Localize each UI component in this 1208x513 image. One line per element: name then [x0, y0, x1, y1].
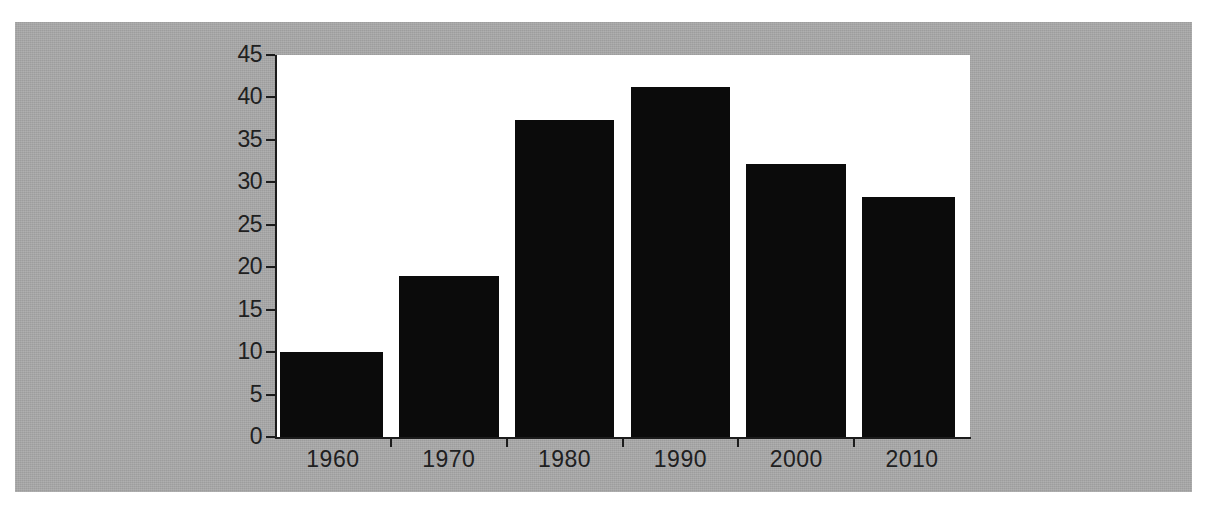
x-axis-label-2000: 2000: [736, 448, 856, 471]
bar-1980: [515, 120, 615, 437]
y-axis-label-text: 0: [226, 425, 262, 448]
y-axis-label-text: 20: [226, 255, 262, 278]
y-axis-label: 15: [224, 298, 262, 322]
y-axis-tick: [266, 309, 275, 311]
x-axis-label-1970: 1970: [389, 448, 509, 471]
y-axis-label: 10: [224, 340, 262, 364]
y-axis-tick: [266, 181, 275, 183]
bar-1970: [399, 276, 499, 437]
y-axis-label: 45: [224, 43, 262, 67]
y-axis-label-text: 45: [226, 43, 262, 66]
y-axis-tick: [266, 394, 275, 396]
y-axis-tick: [266, 436, 275, 438]
x-axis-label-1990: 1990: [620, 448, 740, 471]
y-axis-label-text: 10: [226, 340, 262, 363]
x-axis-label-2010: 2010: [852, 448, 972, 471]
y-axis-label: 35: [224, 128, 262, 152]
bar-1960: [280, 352, 383, 437]
x-axis-label-1960: 1960: [273, 448, 393, 471]
y-axis-label: 40: [224, 85, 262, 109]
y-axis-label: 20: [224, 255, 262, 279]
y-axis-label-text: 5: [226, 383, 262, 406]
bar-1990: [631, 87, 731, 437]
y-axis-label-text: 35: [226, 128, 262, 151]
y-axis-label-text: 15: [226, 298, 262, 321]
x-axis-tick: [737, 439, 739, 447]
x-axis-tick: [506, 439, 508, 447]
x-axis-tick: [853, 439, 855, 447]
y-axis-tick: [266, 266, 275, 268]
y-axis-label: 25: [224, 213, 262, 237]
y-axis-label-text: 25: [226, 213, 262, 236]
bar-chart-figure: 051015202530354045 196019701980199020002…: [0, 0, 1208, 513]
y-axis-tick: [266, 351, 275, 353]
y-axis-label: 30: [224, 170, 262, 194]
x-axis-tick: [622, 439, 624, 447]
y-axis-tick: [266, 224, 275, 226]
y-axis-tick: [266, 54, 275, 56]
y-axis-label: 5: [224, 383, 262, 407]
y-axis-tick: [266, 96, 275, 98]
y-axis-tick: [266, 139, 275, 141]
y-axis-label-text: 30: [226, 170, 262, 193]
y-axis-label-text: 40: [226, 85, 262, 108]
x-axis-label-1980: 1980: [505, 448, 625, 471]
y-axis-line: [275, 55, 277, 439]
y-axis-label: 0: [224, 425, 262, 449]
bar-2010: [862, 197, 955, 437]
bar-2000: [746, 164, 846, 437]
x-axis-tick: [390, 439, 392, 447]
